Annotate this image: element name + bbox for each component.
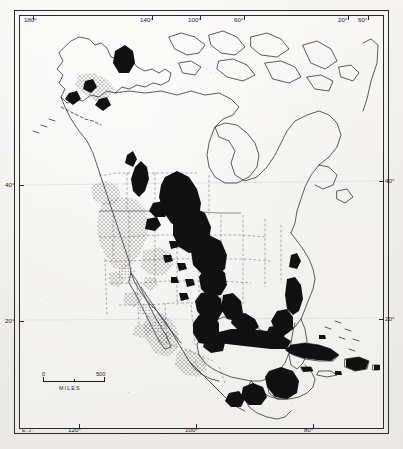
scale-bar-endcap-right: [104, 377, 105, 382]
tick-top-20: [348, 15, 349, 20]
graticule-label-right-20: 20°: [385, 316, 395, 322]
graticule-label-top-100: 100°: [188, 17, 201, 23]
graticule-label-right-40: 40°: [385, 178, 395, 184]
scale-bar-max-label: 500: [96, 372, 105, 378]
graticule-label-bottom-100: 100°: [185, 427, 198, 433]
scale-bar-units-label: MILES: [59, 386, 81, 391]
map-canvas: [19, 15, 384, 429]
scale-bar-endcap-left: [43, 377, 44, 382]
graticule-label-left-40: 40°: [5, 182, 15, 188]
tick-top-60b: [368, 15, 369, 20]
graticule-label-top-20e: 20°: [338, 17, 348, 23]
tick-top-60: [244, 15, 245, 20]
tick-right-20: [379, 319, 384, 320]
graticule-label-bottom-120: 120°: [68, 427, 81, 433]
graticule-label-top-60e: 60°: [358, 17, 368, 23]
map-figure: 180° 140° 100° 60° 20° 60° 40° 20° 40° 2…: [0, 0, 403, 449]
scale-bar: 0 500 MILES: [43, 381, 105, 382]
graticule-label-top-60: 60°: [234, 17, 244, 23]
tick-right-40: [379, 181, 384, 182]
tick-left-20: [19, 321, 24, 322]
author-corner-mark: E.J.: [22, 428, 34, 433]
tick-left-40: [19, 185, 24, 186]
scale-bar-midcap: [74, 379, 75, 382]
scale-bar-min-label: 0: [42, 372, 45, 378]
graticule-label-left-20: 20°: [5, 318, 15, 324]
graticule-label-bottom-80: 80°: [304, 427, 314, 433]
graticule-label-top-180: 180°: [24, 17, 37, 23]
graticule-label-top-140: 140°: [140, 17, 153, 23]
